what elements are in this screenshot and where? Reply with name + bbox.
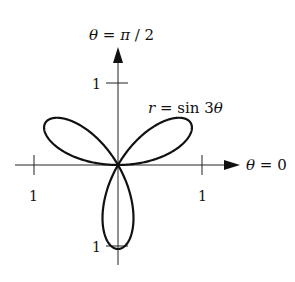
vertical-axis-arrow-icon — [113, 47, 123, 63]
tick-label-bottom: 1 — [92, 239, 101, 255]
tick-label-top: 1 — [92, 76, 101, 92]
polar-axis-arrow-icon — [224, 160, 240, 170]
polar-plot: θ = π / 2 θ = 0 r = sin 3θ 1 1 1 1 — [0, 0, 295, 282]
tick-label-right: 1 — [198, 188, 207, 204]
tick-label-left: 1 — [29, 188, 38, 204]
polar-axis-label: θ = 0 — [246, 156, 287, 174]
vertical-axis-label: θ = π / 2 — [89, 26, 154, 44]
curve-label: r = sin 3θ — [148, 99, 223, 117]
